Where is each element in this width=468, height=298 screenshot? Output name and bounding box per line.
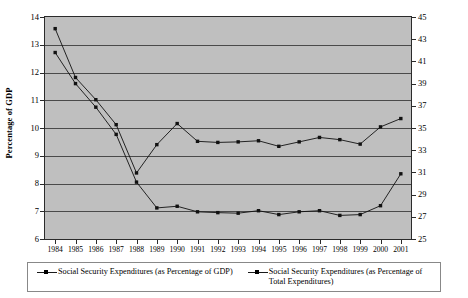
data-point-marker (379, 125, 382, 128)
data-point-marker (216, 211, 219, 214)
data-point-marker (358, 142, 361, 145)
left-axis-tick-label: 9 (13, 151, 39, 160)
data-point-marker (338, 138, 341, 141)
right-axis-tick-label: 31 (418, 168, 444, 177)
data-point-marker (114, 133, 117, 136)
data-point-marker (338, 214, 341, 217)
chart-legend: Social Security Expenditures (as Percent… (27, 262, 441, 292)
x-axis-tickmark (279, 240, 280, 244)
data-point-marker (399, 117, 402, 120)
series-total-expenditures (53, 27, 402, 175)
left-axis-tickmark (40, 128, 44, 129)
left-axis-tick-label: 14 (13, 13, 39, 22)
data-point-marker (216, 141, 219, 144)
series-gdp (53, 51, 402, 217)
left-axis-tickmark (40, 45, 44, 46)
data-point-marker (318, 209, 321, 212)
x-axis-tickmark (320, 240, 321, 244)
right-axis-tick-label: 37 (418, 101, 444, 110)
chart-figure: Percentage of GDP Percentage of Total Sp… (0, 0, 468, 298)
right-axis-tick-label: 43 (418, 35, 444, 44)
data-point-marker (175, 122, 178, 125)
x-axis-tickmark (55, 240, 56, 244)
left-axis-tick-label: 6 (13, 235, 39, 244)
right-axis-tick-label: 29 (418, 190, 444, 199)
x-axis-tick-label: 2001 (386, 245, 416, 254)
left-axis-tickmark (40, 184, 44, 185)
left-axis-tickmark (40, 156, 44, 157)
legend-label-total: Social Security Expenditures (as Percent… (269, 267, 440, 287)
plot-area (44, 16, 412, 240)
data-point-marker (196, 210, 199, 213)
data-point-marker (94, 105, 97, 108)
right-axis-tickmark (412, 128, 416, 129)
right-axis-tickmark (412, 84, 416, 85)
right-axis-tickmark (412, 217, 416, 218)
right-axis-tickmark (412, 150, 416, 151)
x-axis-tickmark (198, 240, 199, 244)
x-axis-tickmark (238, 240, 239, 244)
right-axis-tickmark (412, 239, 416, 240)
x-axis-tickmark (218, 240, 219, 244)
data-point-marker (74, 76, 77, 79)
right-axis-tickmark (412, 61, 416, 62)
data-point-marker (297, 210, 300, 213)
data-point-marker (399, 172, 402, 175)
data-point-marker (175, 205, 178, 208)
left-axis-tick-label: 12 (13, 68, 39, 77)
x-axis-tickmark (96, 240, 97, 244)
left-axis-tickmark (40, 100, 44, 101)
data-point-marker (135, 180, 138, 183)
left-axis-tick-label: 13 (13, 40, 39, 49)
data-point-marker (53, 27, 56, 30)
x-axis-tickmark (401, 240, 402, 244)
right-axis-tick-label: 35 (418, 124, 444, 133)
data-point-marker (114, 123, 117, 126)
data-point-marker (236, 211, 239, 214)
x-axis-tickmark (157, 240, 158, 244)
data-point-marker (257, 139, 260, 142)
left-axis-tick-label: 11 (13, 96, 39, 105)
left-axis-tick-label: 10 (13, 124, 39, 133)
data-point-marker (318, 136, 321, 139)
x-axis-tickmark (137, 240, 138, 244)
x-axis-tickmark (381, 240, 382, 244)
legend-marker-icon (36, 268, 58, 278)
data-point-marker (155, 206, 158, 209)
right-axis-tickmark (412, 172, 416, 173)
x-axis-tickmark (340, 240, 341, 244)
right-axis-tickmark (412, 17, 416, 18)
x-axis-tickmark (177, 240, 178, 244)
legend-item-gdp: Social Security Expenditures (as Percent… (28, 267, 245, 278)
legend-label-gdp: Social Security Expenditures (as Percent… (58, 267, 233, 277)
right-axis-tick-label: 25 (418, 235, 444, 244)
right-axis-tickmark (412, 39, 416, 40)
right-axis-tick-label: 41 (418, 57, 444, 66)
data-point-marker (135, 171, 138, 174)
legend-marker-icon (247, 268, 269, 278)
data-point-marker (277, 145, 280, 148)
series-line (55, 29, 401, 173)
data-point-marker (196, 140, 199, 143)
data-point-marker (379, 204, 382, 207)
legend-item-total: Social Security Expenditures (as Percent… (245, 267, 440, 287)
left-axis-tickmark (40, 73, 44, 74)
data-point-marker (257, 209, 260, 212)
series-layer (45, 17, 411, 239)
data-point-marker (297, 140, 300, 143)
left-axis-tick-label: 7 (13, 207, 39, 216)
right-axis-tick-label: 39 (418, 79, 444, 88)
left-axis-tickmark (40, 239, 44, 240)
left-axis-tickmark (40, 17, 44, 18)
data-point-marker (53, 51, 56, 54)
right-axis-tick-label: 27 (418, 212, 444, 221)
right-axis-tickmark (412, 106, 416, 107)
series-line (55, 53, 401, 216)
right-axis-tick-label: 45 (418, 13, 444, 22)
x-axis-tickmark (116, 240, 117, 244)
left-axis-tickmark (40, 211, 44, 212)
data-point-marker (74, 82, 77, 85)
right-axis-tickmark (412, 195, 416, 196)
x-axis-tickmark (299, 240, 300, 244)
data-point-marker (358, 213, 361, 216)
